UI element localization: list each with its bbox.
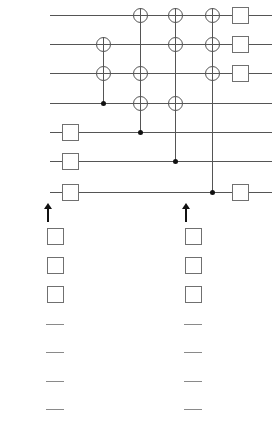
panel-0-dash-2: [46, 381, 64, 382]
cnot-cross-horizontal-3-0: [205, 15, 220, 16]
cnot-cross-horizontal-1-1: [133, 73, 148, 74]
quantum-circuit-figure: [0, 0, 275, 446]
panel-0-z-gate-1[interactable]: [47, 257, 64, 274]
left-arrow-head: [44, 203, 52, 209]
z-gate-q6[interactable]: [232, 7, 249, 24]
qubit-wire-1: [50, 161, 272, 162]
panel-0-dash-3: [46, 409, 64, 410]
cnot-cross-horizontal-0-1: [96, 73, 111, 74]
cnot-control-q1: [173, 159, 178, 164]
panel-1-dash-0: [184, 324, 202, 325]
cnot-cross-horizontal-1-0: [133, 15, 148, 16]
cnot-control-q3: [101, 101, 106, 106]
cnot-control-q0: [210, 190, 215, 195]
panel-0-dash-1: [46, 352, 64, 353]
panel-1-z-gate-2[interactable]: [185, 286, 202, 303]
hadamard-gate-q1[interactable]: [62, 153, 79, 170]
cnot-cross-horizontal-2-1: [168, 44, 183, 45]
qubit-wire-3: [50, 103, 272, 104]
hadamard-gate-q0[interactable]: [62, 184, 79, 201]
panel-0-z-gate-0[interactable]: [47, 228, 64, 245]
panel-1-dash-1: [184, 352, 202, 353]
z-gate-q0[interactable]: [232, 184, 249, 201]
right-arrow-shaft: [185, 208, 187, 222]
panel-0-dash-0: [46, 324, 64, 325]
cnot-cross-horizontal-3-2: [205, 73, 220, 74]
cnot-cross-horizontal-3-1: [205, 44, 220, 45]
cnot-cross-horizontal-2-2: [168, 103, 183, 104]
cnot-cross-horizontal-2-0: [168, 15, 183, 16]
cnot-control-q2: [138, 130, 143, 135]
cnot-cross-horizontal-0-0: [96, 44, 111, 45]
z-gate-q4[interactable]: [232, 65, 249, 82]
z-gate-q5[interactable]: [232, 36, 249, 53]
panel-1-z-gate-1[interactable]: [185, 257, 202, 274]
panel-1-dash-3: [184, 409, 202, 410]
right-arrow-head: [182, 203, 190, 209]
hadamard-gate-q2[interactable]: [62, 124, 79, 141]
panel-1-dash-2: [184, 381, 202, 382]
cnot-cross-horizontal-1-2: [133, 103, 148, 104]
qubit-wire-2: [50, 132, 272, 133]
panel-0-z-gate-2[interactable]: [47, 286, 64, 303]
panel-1-z-gate-0[interactable]: [185, 228, 202, 245]
left-arrow-shaft: [47, 208, 49, 222]
